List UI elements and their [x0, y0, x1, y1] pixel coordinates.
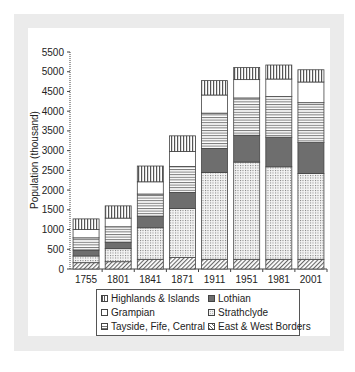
bar-segment	[137, 228, 163, 260]
bar-segment	[169, 151, 195, 166]
bar-1871	[169, 136, 195, 269]
x-tick-label: 1801	[107, 274, 130, 285]
bars	[73, 65, 324, 269]
legend-label: Strathclyde	[218, 307, 268, 318]
bar-segment	[73, 263, 99, 269]
y-tick-label: 1000	[42, 224, 65, 235]
solid-dark-swatch-icon	[208, 295, 215, 302]
bar-segment	[202, 148, 228, 172]
legend: Highlands & Islands Lothian Grampian Str…	[96, 289, 300, 336]
bar-segment	[266, 259, 292, 269]
bar-segment	[202, 95, 228, 113]
y-tick-label: 5000	[42, 66, 65, 77]
bar-segment	[169, 258, 195, 269]
bar-segment	[137, 259, 163, 269]
bar-segment	[234, 98, 260, 135]
bar-segment	[105, 218, 131, 227]
bar-segment	[234, 259, 260, 269]
y-tick-label: 4500	[42, 86, 65, 97]
y-tick-label: 500	[47, 244, 64, 255]
y-tick-label: 4000	[42, 106, 65, 117]
bar-segment	[137, 182, 163, 194]
bar-segment	[266, 97, 292, 138]
legend-label: Grampian	[111, 307, 155, 318]
bar-segment	[298, 143, 324, 174]
bar-segment	[73, 230, 99, 238]
legend-item-highlands: Highlands & Islands	[101, 293, 199, 304]
x-tick-label: 2001	[300, 274, 323, 285]
diagonal-hatch-swatch-icon	[208, 323, 215, 330]
x-tick-label: 1871	[171, 274, 194, 285]
bar-segment	[202, 81, 228, 95]
bar-1981	[266, 65, 292, 269]
bar-segment	[234, 162, 260, 259]
bar-segment	[73, 219, 99, 230]
bar-segment	[137, 216, 163, 228]
bar-segment	[266, 65, 292, 79]
bar-1951	[234, 68, 260, 269]
bar-segment	[169, 208, 195, 257]
y-axis-label: Population (thousand)	[29, 111, 40, 209]
bar-segment	[202, 113, 228, 148]
bar-segment	[137, 194, 163, 216]
legend-item-borders: East & West Borders	[208, 321, 311, 332]
white-swatch-icon	[101, 309, 108, 316]
y-tick-label: 3500	[42, 125, 65, 136]
legend-label: Lothian	[218, 293, 251, 304]
x-tick-label: 1841	[139, 274, 162, 285]
bar-segment	[298, 259, 324, 269]
bar-segment	[298, 103, 324, 143]
bar-1755	[73, 219, 99, 269]
bar-segment	[266, 137, 292, 167]
bar-segment	[234, 135, 260, 162]
vertical-lines-swatch-icon	[101, 295, 108, 302]
legend-item-tayside: Tayside, Fife, Central	[101, 321, 205, 332]
bar-segment	[73, 250, 99, 256]
bar-segment	[234, 68, 260, 80]
bar-segment	[202, 259, 228, 269]
bar-1841	[137, 166, 163, 269]
x-tick-label: 1951	[236, 274, 259, 285]
y-tick-label: 0	[58, 264, 64, 275]
dots-swatch-icon	[208, 309, 215, 316]
bar-segment	[137, 166, 163, 182]
y-tick-label: 5500	[42, 47, 65, 58]
bar-1801	[105, 206, 131, 269]
y-tick-label: 1500	[42, 204, 65, 215]
bar-segment	[266, 79, 292, 97]
legend-item-lothian: Lothian	[208, 293, 251, 304]
bar-segment	[169, 166, 195, 192]
y-tick-label: 3000	[42, 145, 65, 156]
x-tick-label: 1911	[204, 274, 226, 285]
bar-segment	[105, 242, 131, 249]
bar-segment	[234, 80, 260, 98]
legend-label: Highlands & Islands	[111, 293, 199, 304]
bar-segment	[169, 136, 195, 152]
bar-segment	[202, 173, 228, 260]
legend-item-strathclyde: Strathclyde	[208, 307, 268, 318]
bar-segment	[105, 206, 131, 218]
bar-2001	[298, 70, 324, 269]
bar-segment	[169, 192, 195, 208]
y-tick-label: 2000	[42, 185, 65, 196]
bar-segment	[73, 238, 99, 250]
bar-segment	[298, 70, 324, 82]
bar-segment	[73, 256, 99, 263]
legend-label: East & West Borders	[218, 321, 311, 332]
bar-segment	[298, 174, 324, 260]
bar-1911	[202, 81, 228, 269]
horizontal-lines-swatch-icon	[101, 323, 108, 330]
bar-segment	[298, 82, 324, 103]
bar-segment	[266, 167, 292, 260]
legend-label: Tayside, Fife, Central	[111, 321, 205, 332]
bar-segment	[105, 227, 131, 242]
y-tick-label: 2500	[42, 165, 65, 176]
bar-segment	[105, 249, 131, 262]
bar-segment	[105, 262, 131, 269]
legend-item-grampian: Grampian	[101, 307, 155, 318]
x-tick-label: 1755	[75, 274, 98, 285]
x-tick-label: 1981	[268, 274, 291, 285]
